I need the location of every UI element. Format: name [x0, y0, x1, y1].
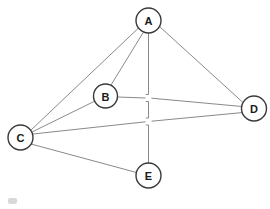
node-a-label: A: [145, 15, 153, 27]
edge-a-d: [160, 27, 244, 103]
node-c-label: C: [17, 132, 25, 144]
node-d[interactable]: D: [242, 96, 267, 121]
node-e-label: E: [145, 170, 152, 182]
edge-a-b: [111, 33, 143, 85]
edge-b-d-right: [152, 98, 243, 106]
edge-a-c: [31, 28, 139, 131]
edge-b-d-left: [118, 97, 146, 98]
graph-svg: A B C D E: [0, 0, 270, 209]
edge-c-e: [31, 144, 137, 173]
diagram-canvas: A B C D E: [0, 0, 270, 209]
crossing-jump-c-d: [146, 118, 149, 125]
edge-b-c: [32, 102, 94, 133]
scan-artifact: [8, 198, 17, 204]
edge-group: [31, 27, 244, 173]
node-e[interactable]: E: [136, 163, 161, 188]
node-b[interactable]: B: [94, 84, 118, 108]
edge-c-d-right: [152, 113, 244, 122]
node-b-label: B: [102, 91, 110, 103]
node-a[interactable]: A: [136, 8, 161, 33]
node-d-label: D: [250, 103, 258, 115]
node-c[interactable]: C: [8, 125, 33, 150]
crossing-jump-b-d: [146, 95, 149, 102]
